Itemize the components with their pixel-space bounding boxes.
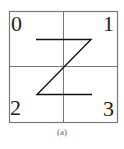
figure-caption: (a) xyxy=(0,126,124,138)
z-order-diagram: 0 1 2 3 (a) xyxy=(0,0,124,149)
quadrant-label-0: 0 xyxy=(11,13,22,35)
quadrant-label-1: 1 xyxy=(103,13,114,35)
quadrant-label-3: 3 xyxy=(103,98,114,120)
quadrant-label-2: 2 xyxy=(10,97,21,119)
